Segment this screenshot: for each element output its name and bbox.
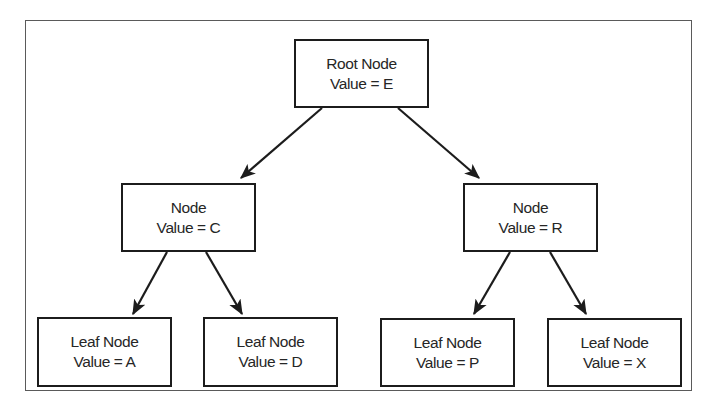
root-node: Root Node Value = E bbox=[294, 39, 429, 108]
node-title: Leaf Node bbox=[237, 332, 305, 352]
leaf-node-x: Leaf Node Value = X bbox=[547, 318, 682, 387]
node-c: Node Value = C bbox=[121, 183, 256, 252]
node-value: Value = D bbox=[239, 352, 303, 372]
node-title: Root Node bbox=[326, 54, 397, 74]
node-value: Value = X bbox=[583, 353, 646, 373]
node-title: Node bbox=[513, 198, 548, 218]
leaf-node-a: Leaf Node Value = A bbox=[37, 317, 172, 387]
node-r: Node Value = R bbox=[463, 183, 598, 252]
node-value: Value = A bbox=[73, 352, 135, 372]
leaf-node-p: Leaf Node Value = P bbox=[380, 318, 515, 387]
node-value: Value = E bbox=[330, 74, 393, 94]
node-value: Value = P bbox=[416, 353, 479, 373]
node-title: Leaf Node bbox=[414, 333, 482, 353]
node-title: Node bbox=[171, 198, 206, 218]
node-value: Value = R bbox=[499, 218, 563, 238]
node-title: Leaf Node bbox=[71, 332, 139, 352]
leaf-node-d: Leaf Node Value = D bbox=[203, 317, 338, 387]
node-title: Leaf Node bbox=[581, 333, 649, 353]
node-value: Value = C bbox=[157, 218, 221, 238]
